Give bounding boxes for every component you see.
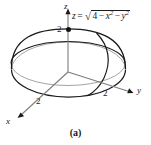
figure-container: z=√4−x2−y2 z y x 2 2 2 (a) <box>0 0 151 145</box>
x-axis-label: x <box>6 117 10 126</box>
z-axis-tick-label: 2 <box>57 25 62 34</box>
z-intercept-point-marker <box>66 27 71 32</box>
y-axis-tick-label: 2 <box>103 89 108 98</box>
figure-caption: (a) <box>0 127 151 138</box>
radicand-minus-2: − <box>113 11 121 21</box>
dome-meridian-right <box>88 33 108 96</box>
radical-expression: √4−x2−y2 <box>84 9 130 21</box>
radicand-y-exponent: 2 <box>126 9 129 16</box>
radicand: 4−x2−y2 <box>91 10 130 22</box>
z-axis-label: z <box>64 2 68 11</box>
equation-label: z=√4−x2−y2 <box>72 9 130 21</box>
y-axis-label: y <box>137 86 141 95</box>
hemisphere-diagram <box>0 0 151 145</box>
x-axis-tick-label: 2 <box>36 97 41 106</box>
x-axis-line <box>22 72 69 115</box>
radical-sign: √ <box>85 10 91 22</box>
radicand-minus-1: − <box>97 11 105 21</box>
base-ellipse-front-arc <box>12 70 126 98</box>
equation-equals: = <box>76 11 84 21</box>
